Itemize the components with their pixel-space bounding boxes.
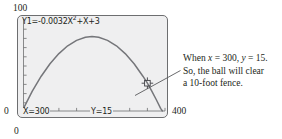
x-axis-origin-label: 0 bbox=[14, 127, 19, 137]
calculator-plot-canvas bbox=[18, 16, 168, 118]
annotation-line1-part-b: = 300, bbox=[212, 53, 241, 63]
y-axis-max-label: 100 bbox=[13, 4, 27, 14]
annotation-line1-part-c: = 15. bbox=[246, 53, 268, 63]
annotation-line1-part-a: When bbox=[183, 53, 208, 63]
annotation-text-block: When x = 300, y = 15. So, the ball will … bbox=[183, 52, 281, 90]
y-axis-origin-label: 0 bbox=[4, 107, 9, 117]
equation-prefix: Y1=-0.0032X bbox=[22, 17, 73, 26]
trace-y-readout: Y=15 bbox=[90, 108, 113, 116]
annotation-line-2: So, the ball will clear bbox=[183, 65, 281, 78]
annotation-line-3: a 10-foot fence. bbox=[183, 77, 281, 90]
parabola-curve bbox=[24, 37, 163, 111]
y-axis bbox=[24, 19, 27, 111]
graphing-calculator-screen: Y1=-0.0032X2+X+3 X=300 Y=15 bbox=[17, 15, 168, 118]
figure-root: 100 0 0 400 bbox=[0, 0, 282, 139]
annotation-line-1: When x = 300, y = 15. bbox=[183, 52, 281, 65]
equation-suffix: +X+3 bbox=[76, 17, 99, 26]
x-axis-max-label: 400 bbox=[172, 107, 186, 117]
equation-readout: Y1=-0.0032X2+X+3 bbox=[22, 18, 100, 26]
trace-x-readout: X=300 bbox=[22, 108, 50, 116]
